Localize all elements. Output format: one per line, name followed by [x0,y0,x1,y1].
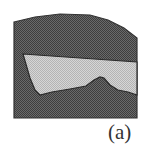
panel-label: (a) [108,122,131,143]
